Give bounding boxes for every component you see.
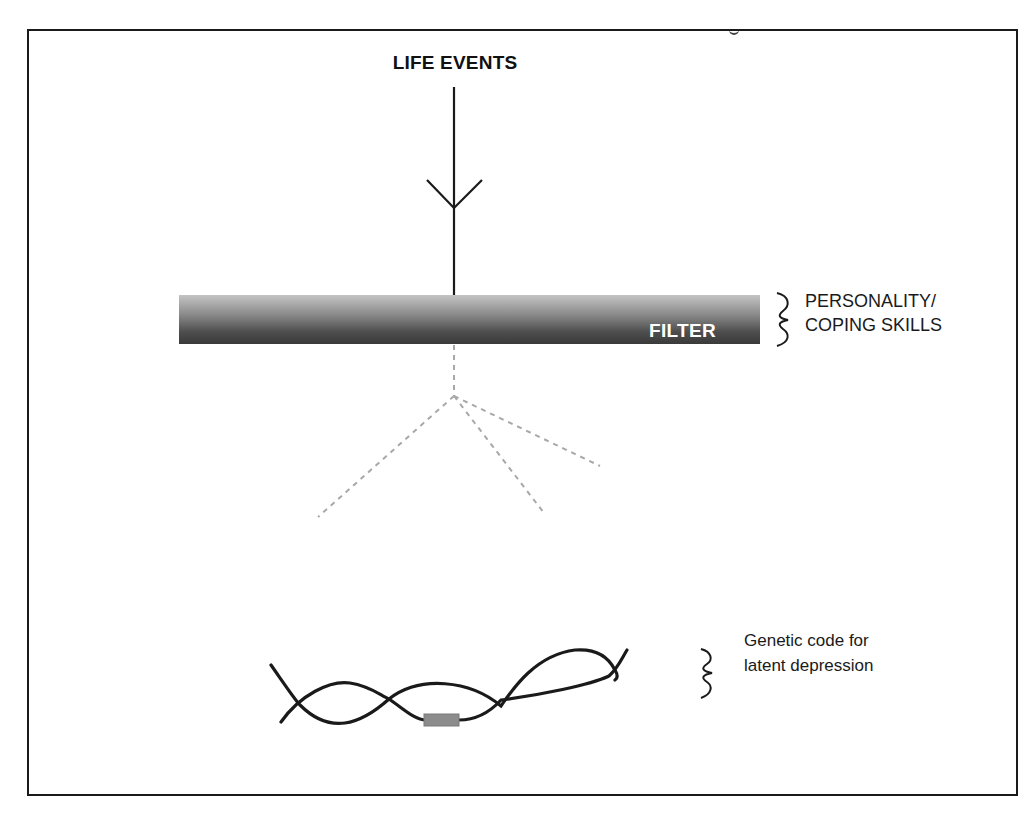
gene-marker (424, 714, 459, 726)
genetic-annotation: Genetic code for latent depression (744, 628, 873, 678)
personality-line-1: PERSONALITY/ (805, 289, 942, 313)
brace-icon-personality (777, 293, 788, 346)
personality-line-2: COPING SKILLS (805, 313, 942, 337)
filter-bar: FILTER (179, 295, 760, 344)
personality-annotation: PERSONALITY/ COPING SKILLS (805, 289, 942, 337)
diagram-graphics (0, 0, 1036, 817)
dna-helix-icon (271, 650, 627, 724)
brace-icon-genetic (701, 649, 712, 698)
genetic-line-1: Genetic code for (744, 628, 873, 653)
filter-label: FILTER (649, 320, 716, 342)
life-events-arrow-icon (427, 87, 482, 305)
genetic-line-2: latent depression (744, 653, 873, 678)
